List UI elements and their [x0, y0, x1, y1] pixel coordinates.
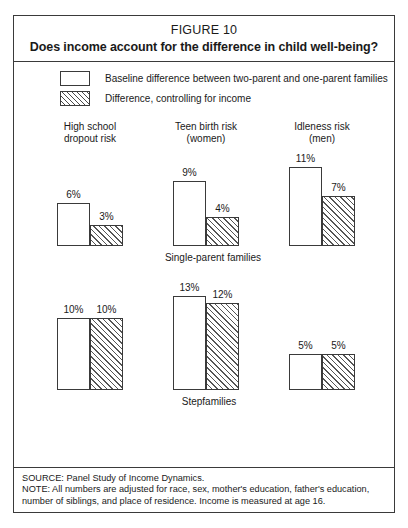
- figure-footer: SOURCE: Panel Study of Income Dynamics. …: [14, 467, 394, 512]
- column-header-dropout-line1: High school: [32, 121, 148, 133]
- figure-frame: FIGURE 10 Does income account for the di…: [13, 15, 395, 513]
- legend-item-controlled: Difference, controlling for income: [60, 91, 394, 106]
- figure-title-block: FIGURE 10 Does income account for the di…: [14, 16, 394, 62]
- bar-controlled: [90, 318, 123, 390]
- column-header-idleness: Idleness risk (men): [264, 121, 380, 145]
- bar-group-idleness-step: 5% 5%: [264, 340, 380, 390]
- bar-controlled: [206, 303, 239, 389]
- legend-item-baseline: Baseline difference between two-parent a…: [60, 71, 394, 86]
- bar-wrap-controlled: 3%: [90, 211, 123, 247]
- bar-value-controlled: 3%: [99, 211, 113, 223]
- white-box-icon: [60, 71, 90, 86]
- bar-value-controlled: 5%: [331, 340, 345, 352]
- bar-value-baseline: 6%: [66, 189, 80, 201]
- bar-baseline: [173, 181, 206, 246]
- column-headers: High school dropout risk Teen birth risk…: [14, 121, 394, 145]
- column-header-teen-birth: Teen birth risk (women): [148, 121, 264, 145]
- bar-groups-stepfamilies: 10% 10% 13% 12%: [32, 282, 380, 390]
- bar-controlled: [206, 217, 239, 246]
- bar-group-teen-birth-step: 13% 12%: [148, 282, 264, 390]
- bar-group-dropout-single: 6% 3%: [32, 189, 148, 246]
- column-header-teen-birth-line1: Teen birth risk: [148, 121, 264, 133]
- bar-value-controlled: 12%: [212, 289, 232, 301]
- bar-wrap-baseline: 5%: [289, 340, 322, 390]
- bar-controlled: [322, 354, 355, 390]
- bar-wrap-controlled: 12%: [206, 289, 239, 389]
- figure-number: FIGURE 10: [22, 23, 386, 38]
- bar-groups-single-parent: 6% 3% 9% 4%: [32, 153, 380, 246]
- bar-value-baseline: 9%: [182, 167, 196, 179]
- column-header-dropout-line2: dropout risk: [32, 133, 148, 145]
- bar-baseline: [57, 318, 90, 390]
- row-caption-single-parent: Single-parent families: [46, 252, 380, 264]
- bar-wrap-controlled: 4%: [206, 203, 239, 246]
- bar-controlled: [322, 196, 355, 246]
- page-title: Does income account for the difference i…: [22, 39, 386, 55]
- legend: Baseline difference between two-parent a…: [14, 62, 394, 117]
- bar-wrap-controlled: 10%: [90, 304, 123, 390]
- bar-wrap-baseline: 6%: [57, 189, 90, 246]
- legend-label-controlled: Difference, controlling for income: [105, 93, 251, 105]
- bar-value-baseline: 10%: [63, 304, 83, 316]
- chart-area: 6% 3% 9% 4%: [14, 145, 394, 408]
- bar-baseline: [289, 354, 322, 390]
- bar-group-idleness-single: 11% 7%: [264, 153, 380, 246]
- bar-wrap-baseline: 11%: [289, 153, 322, 246]
- bar-value-controlled: 4%: [215, 203, 229, 215]
- column-header-teen-birth-line2: (women): [148, 133, 264, 145]
- bar-value-controlled: 7%: [331, 182, 345, 194]
- legend-label-baseline: Baseline difference between two-parent a…: [105, 73, 388, 85]
- bar-baseline: [57, 203, 90, 246]
- bar-wrap-baseline: 13%: [173, 282, 206, 390]
- column-header-dropout: High school dropout risk: [32, 121, 148, 145]
- bar-value-controlled: 10%: [96, 304, 116, 316]
- chart-row-single-parent: 6% 3% 9% 4%: [14, 153, 394, 264]
- hatched-box-icon: [60, 91, 90, 106]
- footer-source: SOURCE: Panel Study of Income Dynamics.: [22, 473, 387, 484]
- bar-value-baseline: 5%: [298, 340, 312, 352]
- row-caption-stepfamilies: Stepfamilies: [38, 396, 380, 408]
- bar-baseline: [289, 167, 322, 246]
- chart-row-stepfamilies: 10% 10% 13% 12%: [14, 282, 394, 408]
- bar-value-baseline: 13%: [179, 282, 199, 294]
- bar-value-baseline: 11%: [296, 153, 315, 165]
- column-header-idleness-line2: (men): [264, 133, 380, 145]
- bar-group-dropout-step: 10% 10%: [32, 304, 148, 390]
- bar-wrap-controlled: 7%: [322, 182, 355, 246]
- bar-group-teen-birth-single: 9% 4%: [148, 167, 264, 246]
- bar-baseline: [173, 296, 206, 390]
- footer-note: NOTE: All numbers are adjusted for race,…: [22, 484, 387, 507]
- bar-wrap-baseline: 10%: [57, 304, 90, 390]
- bar-wrap-controlled: 5%: [322, 340, 355, 390]
- bar-wrap-baseline: 9%: [173, 167, 206, 246]
- column-header-idleness-line1: Idleness risk: [264, 121, 380, 133]
- bar-controlled: [90, 225, 123, 247]
